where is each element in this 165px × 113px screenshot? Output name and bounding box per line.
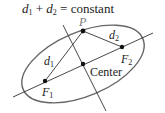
label-f1: F1 — [42, 86, 53, 100]
focus-f2 — [120, 45, 124, 49]
label-f2: F2 — [121, 53, 132, 67]
equals-constant: = constant — [57, 1, 114, 16]
point-p — [81, 29, 86, 34]
title-equation: d1 + d2 = constant — [22, 2, 114, 17]
center-point — [81, 62, 85, 66]
label-d2: d2 — [109, 29, 119, 43]
focus-f1 — [43, 79, 47, 83]
label-center: Center — [90, 66, 122, 78]
label-p: P — [79, 16, 86, 28]
label-d1: d1 — [44, 55, 54, 69]
plus: + — [33, 1, 47, 16]
